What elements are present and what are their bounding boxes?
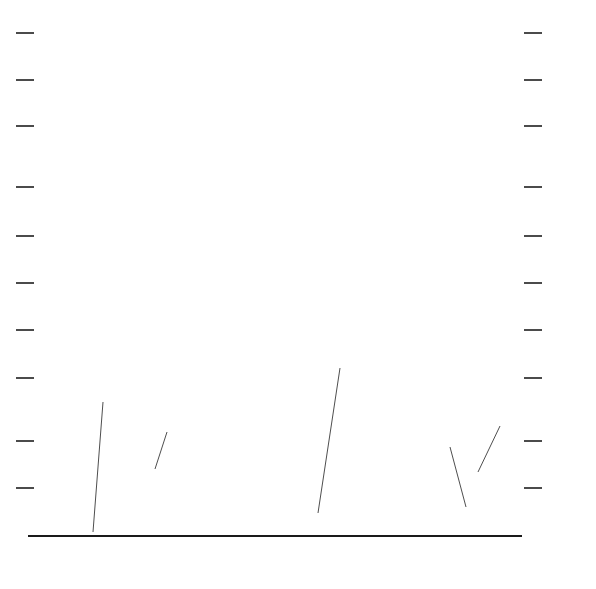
annotation-rapidly-industrializing: [93, 402, 103, 532]
annotation-middle-east-europe: [318, 368, 340, 513]
africa-leader-line: [450, 447, 466, 507]
middle-east-leader-line: [318, 368, 340, 513]
annotation-asia: [478, 426, 500, 472]
chart-figure: [0, 0, 596, 589]
asia-leader-line: [478, 426, 500, 472]
annotation-africa: [450, 447, 466, 507]
annotation-western-hemisphere: [155, 432, 167, 469]
right-axis-ticks: [524, 33, 542, 488]
chart-canvas: [0, 0, 596, 589]
left-axis-ticks: [16, 33, 34, 488]
rapidly-leader-line: [93, 402, 103, 532]
western-leader-line: [155, 432, 167, 469]
